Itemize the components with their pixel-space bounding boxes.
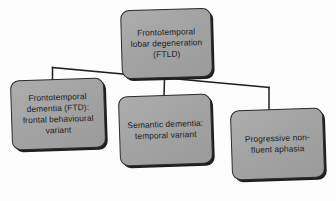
node-progressive-nonfluent-aphasia-label: Progressive non-fluent aphasia: [237, 132, 319, 157]
node-ftd-line2: dementia (FTD):: [26, 102, 89, 114]
connector-root-to-semantic: [164, 79, 165, 97]
ftld-subtype-diagram: Frontotemporallobar degeneration(FTLD) F…: [0, 0, 336, 201]
node-ftd-label: Frontotemporaldementia (FTD):frontal beh…: [16, 90, 99, 137]
node-semantic-dementia: Semantic dementia:temporal variant: [118, 93, 213, 166]
node-semantic-dementia-line2: temporal variant: [135, 129, 197, 141]
node-ftd-line4: variant: [45, 125, 71, 136]
node-ftld-line1: Frontotemporal: [137, 26, 195, 38]
node-progressive-nonfluent-aphasia: Progressive non-fluent aphasia: [230, 107, 325, 180]
node-ftd-line3: frontal behavioural: [23, 113, 94, 125]
node-ftd-line1: Frontotemporal: [28, 91, 87, 103]
node-ftld-label: Frontotemporallobar degeneration(FTLD): [127, 26, 207, 61]
node-ftld-line2: lobar degeneration: [131, 37, 203, 49]
node-progressive-nonfluent-aphasia-line2: fluent aphasia: [251, 143, 305, 155]
node-semantic-dementia-label: Semantic dementia:temporal variant: [125, 118, 207, 143]
node-ftld: Frontotemporallobar degeneration(FTLD): [120, 8, 213, 80]
node-ftd: Frontotemporaldementia (FTD):frontal beh…: [10, 77, 106, 150]
node-progressive-nonfluent-aphasia-line1: Progressive non-: [245, 132, 310, 144]
node-ftld-line3: (FTLD): [153, 49, 180, 60]
